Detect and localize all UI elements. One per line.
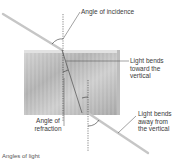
label-refraction-line2: refraction	[34, 125, 62, 133]
label-bends-away: Light bends away from the vertical	[138, 110, 172, 133]
label-angle-of-refraction: Angle of refraction	[34, 117, 62, 132]
label-bends-away-line2: away from	[138, 118, 172, 126]
incident-ray	[3, 14, 62, 50]
label-bends-toward-line3: vertical	[130, 72, 164, 80]
leader-away	[118, 116, 136, 133]
label-bends-away-line3: the vertical	[138, 125, 172, 133]
label-bends-toward-line1: Light bends	[130, 57, 164, 65]
figure-caption: Angles of light	[2, 153, 40, 159]
label-angle-of-incidence: Angle of incidence	[81, 8, 134, 16]
label-refraction-line1: Angle of	[34, 117, 62, 125]
refraction-diagram	[0, 0, 175, 161]
label-bends-toward: Light bends toward the vertical	[130, 57, 164, 80]
angle-arc-exit	[88, 120, 99, 126]
glass-block	[24, 50, 120, 115]
label-bends-toward-line2: toward the	[130, 65, 164, 73]
leader-incidence	[63, 12, 80, 39]
label-bends-away-line1: Light bends	[138, 110, 172, 118]
angle-arc-incidence	[52, 39, 63, 44]
